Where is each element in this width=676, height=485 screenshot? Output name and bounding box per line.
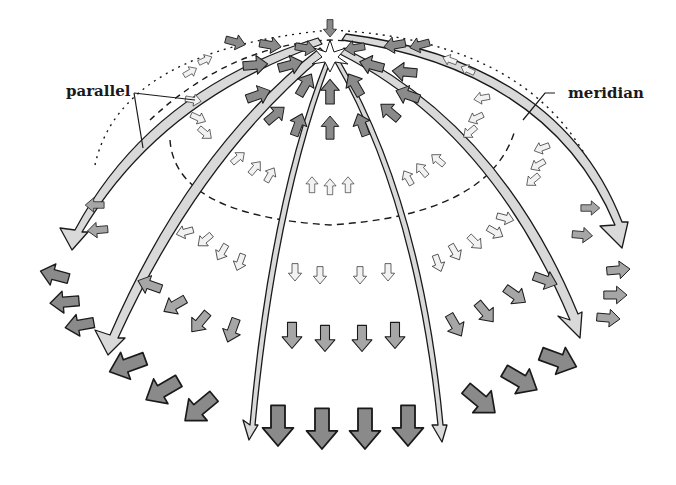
base-ring-arrows xyxy=(38,260,582,449)
dome-force-diagram: parallel meridian xyxy=(0,0,676,485)
meridian-label: meridian xyxy=(568,84,644,102)
dome-illustration xyxy=(0,0,676,485)
parallel-label: parallel xyxy=(66,82,130,100)
middle-band-arrows xyxy=(175,209,516,284)
